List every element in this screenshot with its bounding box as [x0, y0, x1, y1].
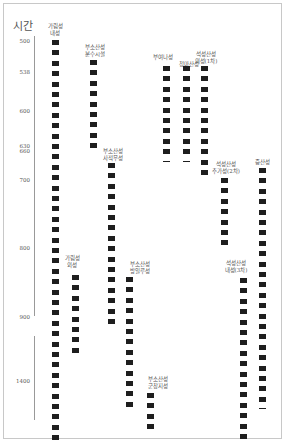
segment-square — [221, 209, 228, 214]
segment-square — [108, 319, 115, 324]
segment-square — [183, 87, 190, 92]
segment-square — [52, 92, 59, 97]
segment-square — [108, 288, 115, 293]
segment-square — [259, 376, 266, 381]
segment-square — [52, 383, 59, 388]
segment-square — [126, 350, 133, 355]
segment-square — [259, 272, 266, 277]
segment-square — [163, 97, 170, 102]
segment-square — [126, 287, 133, 292]
segment-square — [108, 257, 115, 262]
segment-square — [52, 373, 59, 378]
series-label: 부여나성 — [149, 54, 177, 61]
segment-square — [240, 351, 247, 356]
segment-square — [108, 215, 115, 220]
series-label: 가림성 외성 — [58, 255, 86, 269]
segment-square — [163, 108, 170, 113]
segment-square — [183, 118, 190, 123]
segment-square — [126, 329, 133, 334]
segment-square — [147, 393, 154, 398]
segment-square — [52, 321, 59, 326]
segment-square — [240, 424, 247, 429]
segment-square — [259, 168, 266, 173]
segment-square — [259, 189, 266, 194]
segment-square — [108, 277, 115, 282]
segment-square — [259, 230, 266, 235]
segment-square — [240, 340, 247, 345]
segment-square — [126, 277, 133, 282]
segment-square — [52, 71, 59, 76]
segment-square — [183, 76, 190, 81]
segment-square — [201, 170, 208, 175]
segment-square — [163, 118, 170, 123]
segment-square — [259, 334, 266, 339]
segment-square — [52, 186, 59, 191]
segment-square — [90, 81, 97, 86]
segment-square — [259, 397, 266, 402]
y-axis-lower — [34, 336, 35, 420]
segment-square — [201, 87, 208, 92]
segment-square — [201, 66, 208, 71]
segment-square — [201, 128, 208, 133]
segment-square — [126, 391, 133, 396]
segment-square — [240, 330, 247, 335]
segment-square — [259, 262, 266, 267]
segment-square — [259, 345, 266, 350]
segment-square — [52, 238, 59, 243]
segment-square — [52, 425, 59, 430]
segment-square — [52, 248, 59, 253]
segment-square — [90, 60, 97, 65]
y-tick-label: 660 — [8, 148, 30, 154]
segment-square — [201, 97, 208, 102]
segment-square — [108, 163, 115, 168]
segment-square — [72, 337, 79, 342]
segment-square — [108, 225, 115, 230]
segment-square — [52, 279, 59, 284]
segment-square — [201, 108, 208, 113]
segment-square — [108, 298, 115, 303]
segment-square — [259, 324, 266, 329]
segment-square — [52, 175, 59, 180]
segment-square — [201, 139, 208, 144]
y-axis-upper — [34, 36, 35, 316]
segment-square — [52, 227, 59, 232]
segment-square — [163, 149, 170, 154]
segment-square — [52, 352, 59, 357]
series-label: 증산성 — [248, 159, 276, 166]
segment-square — [72, 317, 79, 322]
segment-square — [52, 362, 59, 367]
segment-square — [52, 290, 59, 295]
segment-square — [259, 282, 266, 287]
segment-square — [259, 386, 266, 391]
segment-square — [126, 319, 133, 324]
y-tick-label: 800 — [8, 245, 30, 251]
segment-square — [259, 220, 266, 225]
segment-square — [259, 314, 266, 319]
segment-square — [52, 61, 59, 66]
series-label: 부소산성 군창지성 — [144, 376, 172, 390]
segment-square — [259, 293, 266, 298]
segment-square — [259, 210, 266, 215]
segment-square — [259, 241, 266, 246]
segment-square — [221, 188, 228, 193]
segment-square — [52, 154, 59, 159]
segment-square — [108, 267, 115, 272]
segment-square — [52, 310, 59, 315]
y-tick-label: 1400 — [8, 378, 30, 384]
segment-square — [240, 372, 247, 377]
segment-square — [108, 246, 115, 251]
segment-square — [90, 122, 97, 127]
segment-square — [108, 205, 115, 210]
segment-square — [90, 143, 97, 148]
segment-square — [108, 173, 115, 178]
segment-square — [240, 309, 247, 314]
segment-square — [240, 403, 247, 408]
segment-square — [240, 392, 247, 397]
segment-square — [183, 128, 190, 133]
segment-square — [52, 102, 59, 107]
segment-square — [72, 306, 79, 311]
segment-square — [221, 240, 228, 245]
segment-square — [240, 382, 247, 387]
segment-square — [52, 134, 59, 139]
segment-square — [108, 194, 115, 199]
